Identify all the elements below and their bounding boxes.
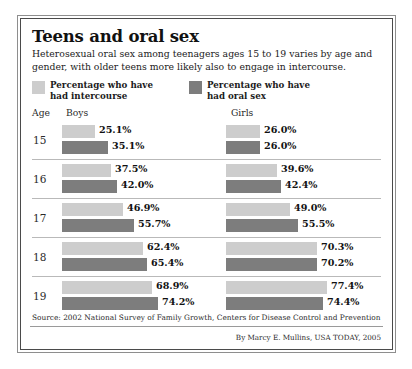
- bar-oral-sex: [226, 180, 281, 193]
- bar-intercourse: [62, 203, 123, 216]
- bar-intercourse: [226, 125, 260, 138]
- bar-value-label: 70.3%: [321, 241, 353, 252]
- bar-line: 74.4%: [226, 296, 391, 310]
- bar-line: 26.0%: [226, 140, 391, 154]
- bar-group-girls: 70.3%70.2%: [226, 241, 391, 273]
- bar-value-label: 39.6%: [281, 163, 313, 174]
- bar-value-label: 74.2%: [162, 296, 194, 307]
- bar-group-boys: 46.9%55.7%: [62, 202, 227, 234]
- bar-value-label: 68.9%: [156, 280, 188, 291]
- bar-line: 74.2%: [62, 296, 227, 310]
- bar-oral-sex: [62, 180, 117, 193]
- legend-label-intercourse: Percentage who have had intercourse: [50, 80, 168, 102]
- bar-line: 77.4%: [226, 280, 391, 294]
- bar-intercourse: [226, 164, 277, 177]
- age-label: 15: [33, 134, 46, 146]
- footer-divider: [30, 326, 383, 327]
- bar-value-label: 42.0%: [121, 179, 153, 190]
- bar-group-boys: 25.1%35.1%: [62, 124, 227, 156]
- bar-line: 49.0%: [226, 202, 391, 216]
- bar-line: 42.0%: [62, 179, 227, 193]
- bar-line: 68.9%: [62, 280, 227, 294]
- infographic-inner-frame: Teens and oral sex Heterosexual oral sex…: [20, 18, 393, 350]
- bar-value-label: 42.4%: [285, 179, 317, 190]
- bar-group-boys: 62.4%65.4%: [62, 241, 227, 273]
- bar-oral-sex: [226, 297, 323, 310]
- bar-oral-sex: [62, 297, 158, 310]
- page-subtitle: Heterosexual oral sex among teenagers ag…: [32, 48, 381, 73]
- bar-group-girls: 49.0%55.5%: [226, 202, 391, 234]
- bar-line: 70.2%: [226, 257, 391, 271]
- bar-group-boys: 68.9%74.2%: [62, 280, 227, 312]
- bar-intercourse: [226, 242, 317, 255]
- bar-oral-sex: [226, 141, 260, 154]
- bar-value-label: 70.2%: [321, 257, 353, 268]
- bar-value-label: 77.4%: [331, 280, 363, 291]
- bar-intercourse: [226, 203, 290, 216]
- bar-value-label: 35.1%: [112, 140, 144, 151]
- bar-value-label: 37.5%: [115, 163, 147, 174]
- legend-swatch-oral-sex-icon: [189, 81, 202, 94]
- chart-legend: Percentage who have had intercourse Perc…: [32, 80, 381, 102]
- legend-item-intercourse: Percentage who have had intercourse: [32, 80, 189, 102]
- chart-row: 1525.1%35.1%26.0%26.0%: [32, 121, 381, 160]
- bar-line: 25.1%: [62, 124, 227, 138]
- bar-value-label: 25.1%: [99, 124, 131, 135]
- bar-oral-sex: [62, 258, 147, 271]
- bar-line: 65.4%: [62, 257, 227, 271]
- legend-label-oral-sex: Percentage who have had oral sex: [207, 80, 325, 102]
- age-label: 17: [33, 212, 46, 224]
- bar-value-label: 46.9%: [127, 202, 159, 213]
- age-label: 18: [33, 251, 46, 263]
- column-headers: Age Boys Girls: [32, 107, 381, 121]
- age-label: 16: [33, 173, 46, 185]
- chart-row: 1637.5%42.0%39.6%42.4%: [32, 160, 381, 199]
- age-label: 19: [33, 290, 46, 302]
- bar-line: 26.0%: [226, 124, 391, 138]
- bar-oral-sex: [226, 219, 298, 232]
- bar-oral-sex: [62, 219, 134, 232]
- column-header-boys: Boys: [66, 107, 88, 118]
- bar-value-label: 26.0%: [264, 124, 296, 135]
- bar-line: 55.7%: [62, 218, 227, 232]
- bar-line: 55.5%: [226, 218, 391, 232]
- bar-value-label: 65.4%: [151, 257, 183, 268]
- bar-value-label: 55.5%: [302, 218, 334, 229]
- bar-value-label: 26.0%: [264, 140, 296, 151]
- bar-oral-sex: [226, 258, 317, 271]
- infographic-panel: Teens and oral sex Heterosexual oral sex…: [17, 15, 396, 353]
- legend-swatch-intercourse-icon: [32, 81, 45, 94]
- bar-value-label: 55.7%: [138, 218, 170, 229]
- bar-value-label: 49.0%: [294, 202, 326, 213]
- column-header-girls: Girls: [231, 107, 253, 118]
- bar-intercourse: [226, 281, 327, 294]
- bar-group-girls: 26.0%26.0%: [226, 124, 391, 156]
- chart-rows: 1525.1%35.1%26.0%26.0%1637.5%42.0%39.6%4…: [32, 121, 381, 315]
- credit-note: By Marcy E. Mullins, USA TODAY, 2005: [236, 333, 381, 342]
- bar-line: 46.9%: [62, 202, 227, 216]
- bar-group-girls: 77.4%74.4%: [226, 280, 391, 312]
- bar-line: 42.4%: [226, 179, 391, 193]
- bar-intercourse: [62, 125, 95, 138]
- bar-group-boys: 37.5%42.0%: [62, 163, 227, 195]
- bar-intercourse: [62, 164, 111, 177]
- bar-intercourse: [62, 281, 152, 294]
- bar-intercourse: [62, 242, 143, 255]
- chart-row: 1968.9%74.2%77.4%74.4%: [32, 277, 381, 315]
- source-note: Source: 2002 National Survey of Family G…: [32, 313, 381, 322]
- page-title: Teens and oral sex: [32, 28, 381, 45]
- bar-line: 35.1%: [62, 140, 227, 154]
- chart-row: 1862.4%65.4%70.3%70.2%: [32, 238, 381, 277]
- infographic-content: Teens and oral sex Heterosexual oral sex…: [21, 19, 392, 349]
- bar-group-girls: 39.6%42.4%: [226, 163, 391, 195]
- bar-line: 39.6%: [226, 163, 391, 177]
- chart-row: 1746.9%55.7%49.0%55.5%: [32, 199, 381, 238]
- bar-line: 37.5%: [62, 163, 227, 177]
- bar-oral-sex: [62, 141, 108, 154]
- column-header-age: Age: [32, 107, 50, 118]
- bar-line: 70.3%: [226, 241, 391, 255]
- bar-line: 62.4%: [62, 241, 227, 255]
- bar-value-label: 62.4%: [147, 241, 179, 252]
- legend-item-oral-sex: Percentage who have had oral sex: [189, 80, 325, 102]
- bar-value-label: 74.4%: [327, 296, 359, 307]
